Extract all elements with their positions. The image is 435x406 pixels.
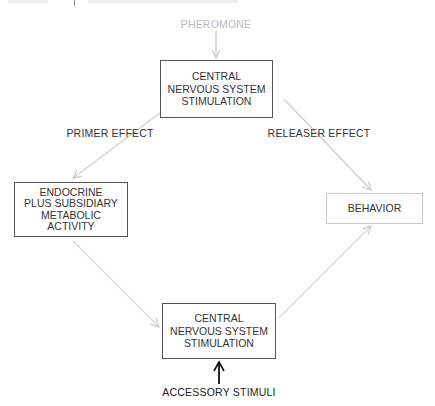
endocrine-line-4: ACTIVITY [47,221,94,233]
behavior-box: BEHAVIOR [326,193,423,224]
releaser-effect-label: RELEASER EFFECT [262,127,376,139]
cns-bottom-line-1: CENTRAL [194,312,243,325]
releaser-effect-arrow [284,99,371,190]
primer-effect-label: PRIMER EFFECT [60,127,160,139]
cns-top-box: CENTRAL NERVOUS SYSTEM STIMULATION [160,60,273,118]
cns-to-behavior-arrow [279,226,371,318]
endocrine-to-cns-arrow [73,241,159,327]
accessory-stimuli-label: ACCESSORY STIMULI [160,386,278,398]
cns-bottom-box: CENTRAL NERVOUS SYSTEM STIMULATION [162,303,276,359]
cns-top-line-1: CENTRAL [192,70,241,83]
primer-effect-arrow [73,113,160,178]
pheromone-label: PHEROMONE [176,18,256,30]
endocrine-box: ENDOCRINE PLUS SUBSIDIARY METABOLIC ACTI… [14,182,128,237]
behavior-label: BEHAVIOR [348,202,401,215]
cns-top-line-2: NERVOUS SYSTEM [168,83,266,96]
cns-bottom-line-2: NERVOUS SYSTEM [170,325,268,338]
cns-bottom-line-3: STIMULATION [184,337,254,350]
cns-top-line-3: STIMULATION [182,95,252,108]
endocrine-line-2: PLUS SUBSIDIARY [24,198,118,210]
